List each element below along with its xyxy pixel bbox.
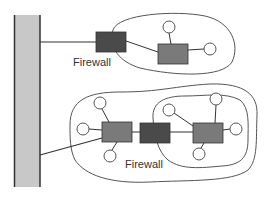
link-router-host xyxy=(169,33,171,44)
host-icon xyxy=(210,93,222,105)
firewall-bottom xyxy=(140,123,170,143)
host-icon xyxy=(77,123,89,135)
link-router-host xyxy=(174,113,193,126)
router-bottom-right xyxy=(193,123,223,143)
link-router-host xyxy=(102,109,109,122)
link-router-host xyxy=(188,49,204,50)
host-icon xyxy=(230,123,242,135)
firewall-label-top: Firewall xyxy=(73,56,111,68)
host-icon xyxy=(163,21,175,33)
link-router-host xyxy=(112,142,117,150)
link-router-host xyxy=(215,105,216,123)
firewall-top xyxy=(96,32,126,52)
link-fw-router-top xyxy=(126,41,158,52)
router-bottom-left xyxy=(102,122,132,142)
host-icon xyxy=(163,104,175,116)
backbone xyxy=(14,15,40,187)
link-router-host xyxy=(89,129,102,130)
link-router-host xyxy=(201,143,204,148)
host-icon xyxy=(204,43,216,55)
diagram-svg: Firewall Firewall xyxy=(0,0,273,210)
host-icon xyxy=(193,148,205,160)
host-icon xyxy=(104,150,116,162)
router-top xyxy=(158,44,188,64)
link-backbone-router-bottom xyxy=(40,138,102,155)
network-diagram: Firewall Firewall xyxy=(0,0,273,210)
host-icon xyxy=(94,97,106,109)
firewall-label-bottom: Firewall xyxy=(125,158,163,170)
link-router-host xyxy=(223,129,230,130)
